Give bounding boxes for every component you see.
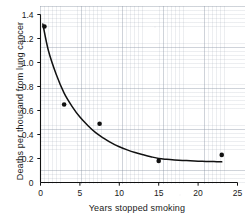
data-point — [42, 24, 47, 29]
x-tick-label: 5 — [70, 188, 90, 198]
y-axis-title: Deaths per thousand from lung cancer — [15, 1, 25, 201]
data-points-group — [42, 24, 224, 163]
x-tick-label: 10 — [109, 188, 129, 198]
fitted-curve — [43, 24, 222, 162]
data-point — [62, 102, 67, 107]
data-point — [219, 153, 224, 158]
x-tick-label: 15 — [149, 188, 169, 198]
data-point — [97, 121, 102, 126]
axes-group — [41, 15, 238, 183]
fitted-curve-group — [43, 24, 222, 162]
x-tick-label: 20 — [188, 188, 208, 198]
data-point — [156, 159, 161, 164]
x-axis-title: Years stopped smoking — [0, 203, 250, 213]
figure-container: 00.20.40.60.81.01.21.4 0510152025 Deaths… — [0, 0, 250, 222]
x-tick-label: 0 — [31, 188, 51, 198]
x-tick-label: 25 — [228, 188, 248, 198]
